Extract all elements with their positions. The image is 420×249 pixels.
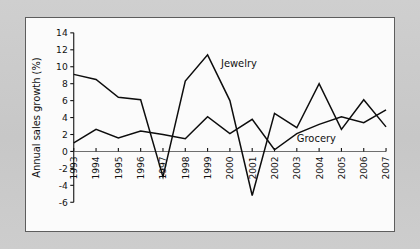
x-tick-label: 1996 [136,156,146,179]
y-tick-label: 4 [62,113,68,123]
y-tick-label: -2 [59,164,68,174]
series-line-grocery [74,110,386,150]
y-tick-label: 0 [62,147,68,157]
y-tick-label: 14 [56,28,68,38]
chart-panel: -6-4-202468101214Annual sales growth (%)… [25,17,395,232]
x-tick-label: 2000 [225,156,235,179]
x-tick-label: 2007 [381,156,391,179]
series-annotation-jewelry: Jewelry [220,58,257,69]
y-tick-label: -4 [59,181,68,191]
x-tick-label: 2002 [270,156,280,179]
y-axis-title: Annual sales growth (%) [31,57,42,178]
y-tick-label: -6 [59,198,68,208]
y-tick-label: 10 [56,62,68,72]
x-tick-label: 1994 [91,156,101,179]
y-tick-label: 2 [62,130,68,140]
x-tick-label: 1995 [114,156,124,179]
x-tick-label: 2004 [314,156,324,179]
x-tick-label: 1993 [69,156,79,179]
x-tick-label: 2005 [337,156,347,179]
series-annotation-grocery: Grocery [297,133,336,144]
x-tick-label: 1999 [203,156,213,179]
x-tick-label: 2006 [359,156,369,179]
chart-svg: -6-4-202468101214Annual sales growth (%)… [26,18,394,231]
y-tick-label: 6 [62,96,68,106]
x-tick-label: 2003 [292,156,302,179]
y-tick-label: 8 [62,79,68,89]
y-tick-label: 12 [56,45,68,55]
x-tick-label: 1998 [181,156,191,179]
x-tick-label: 2001 [248,156,258,179]
plot-root: -6-4-202468101214Annual sales growth (%)… [31,28,392,207]
